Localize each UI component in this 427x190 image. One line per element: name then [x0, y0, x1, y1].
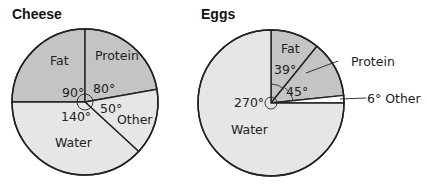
eggs-label-protein: Protein — [351, 54, 395, 69]
cheese-angle-fat: 90° — [62, 85, 84, 100]
cheese-angle-water: 140° — [61, 109, 91, 124]
cheese-angle-protein: 80° — [93, 81, 115, 96]
cheese-label-other: Other — [117, 112, 153, 127]
eggs-label-water: Water — [231, 122, 269, 137]
pie-charts: Cheese Fat Protein Other Water 90° 80° 5… — [0, 0, 427, 190]
eggs-angle-protein: 45° — [286, 84, 308, 99]
cheese-label-protein: Protein — [95, 48, 139, 63]
eggs-angle-fat: 39° — [274, 62, 296, 77]
cheese-angle-other: 50° — [100, 101, 122, 116]
cheese-label-water: Water — [55, 135, 93, 150]
eggs-label-other: 6° Other — [367, 91, 422, 106]
eggs-label-fat: Fat — [281, 41, 300, 56]
eggs-angle-water: 270° — [234, 95, 264, 110]
cheese-label-fat: Fat — [50, 53, 69, 68]
eggs-title: Eggs — [201, 6, 235, 22]
cheese-title: Cheese — [12, 6, 62, 22]
